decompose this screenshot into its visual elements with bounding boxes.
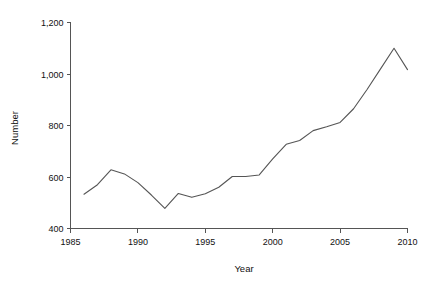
x-tick-label: 1985 bbox=[60, 237, 80, 247]
y-tick-label: 400 bbox=[48, 224, 63, 234]
x-tick-label: 2005 bbox=[330, 237, 350, 247]
data-series-line bbox=[84, 48, 408, 208]
x-axis-ticks bbox=[71, 229, 408, 233]
x-tick-label: 1995 bbox=[195, 237, 215, 247]
x-axis-tick-labels: 198519901995200020052010 bbox=[60, 237, 417, 247]
y-axis-tick-labels: 4006008001,0001,200 bbox=[41, 18, 64, 234]
x-tick-label: 2010 bbox=[397, 237, 417, 247]
x-axis-title: Year bbox=[234, 263, 253, 274]
x-tick-label: 1990 bbox=[128, 237, 148, 247]
y-axis-title: Number bbox=[9, 111, 20, 145]
y-tick-label: 800 bbox=[48, 121, 63, 131]
y-axis-ticks bbox=[67, 23, 71, 229]
line-chart: 4006008001,0001,200 19851990199520002005… bbox=[0, 0, 436, 284]
y-tick-label: 1,200 bbox=[41, 18, 64, 28]
y-tick-label: 1,000 bbox=[41, 70, 64, 80]
chart-canvas: 4006008001,0001,200 19851990199520002005… bbox=[0, 0, 436, 284]
x-tick-label: 2000 bbox=[263, 237, 283, 247]
y-tick-label: 600 bbox=[48, 173, 63, 183]
